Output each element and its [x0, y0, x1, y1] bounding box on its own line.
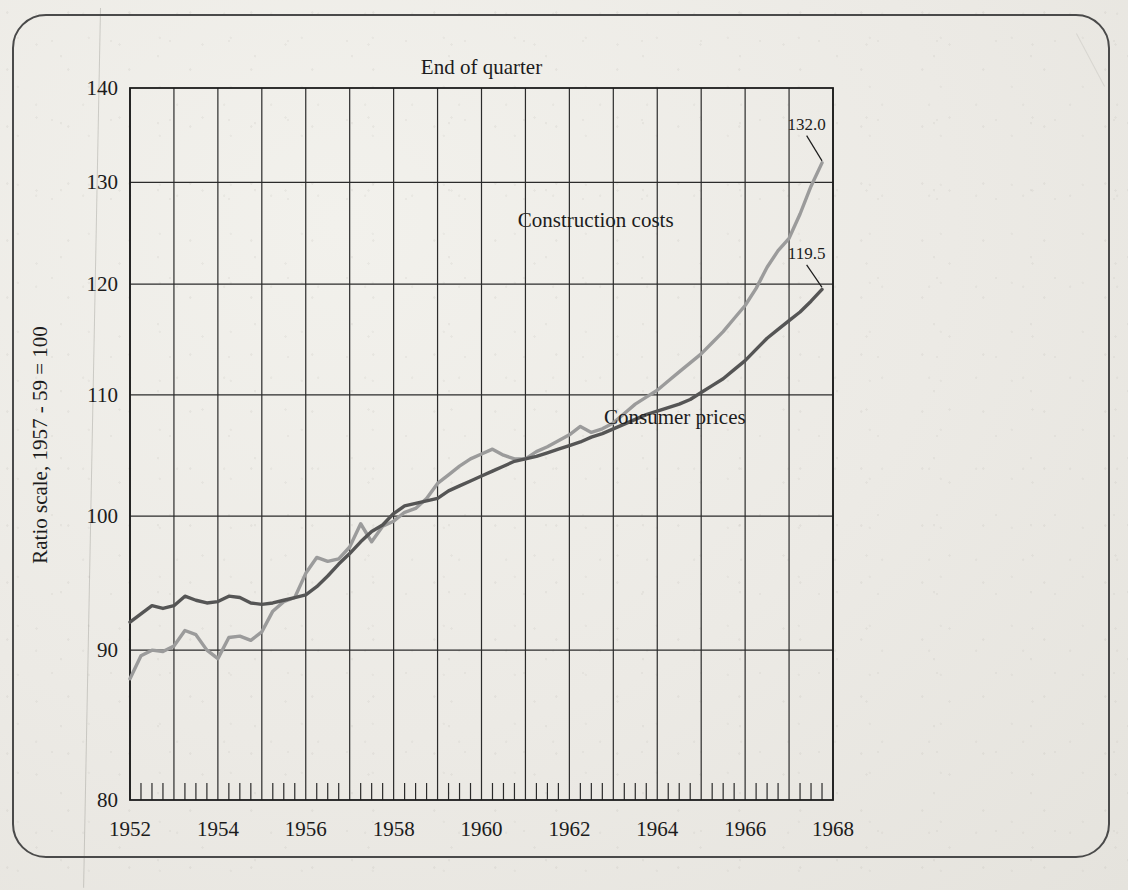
y-axis-title: Ratio scale, 1957 - 59 = 100: [28, 326, 52, 564]
series-label-construction-costs: Construction costs: [518, 208, 674, 232]
y-tick-label: 100: [87, 504, 119, 528]
x-tick-label: 1966: [724, 817, 766, 841]
x-tick-label: 1954: [197, 817, 240, 841]
y-tick-label: 130: [87, 170, 119, 194]
x-tick-label: 1952: [109, 817, 151, 841]
series-label-consumer-prices: Consumer prices: [604, 405, 746, 429]
page-background: 8090100110120130140 19521954195619581960…: [0, 0, 1128, 890]
plot-title: End of quarter: [421, 55, 542, 79]
x-tick-label: 1960: [461, 817, 503, 841]
x-tick-label: 1962: [548, 817, 590, 841]
x-tick-label: 1964: [636, 817, 679, 841]
y-axis-tick-labels: 8090100110120130140: [87, 76, 119, 812]
y-tick-label: 140: [87, 76, 119, 100]
x-tick-label: 1968: [812, 817, 854, 841]
y-tick-label: 110: [87, 383, 118, 407]
x-axis-tick-labels: 195219541956195819601962196419661968: [109, 817, 854, 841]
y-tick-label: 80: [97, 788, 118, 812]
x-tick-label: 1956: [285, 817, 327, 841]
chart-figure: 8090100110120130140 19521954195619581960…: [0, 0, 1128, 890]
end-value-label-construction-costs: 132.0: [788, 115, 826, 134]
vertical-gridlines: [130, 88, 833, 800]
y-tick-label: 90: [97, 638, 118, 662]
end-value-leader-lines: [807, 136, 822, 288]
y-tick-label: 120: [87, 272, 119, 296]
end-value-label-consumer-prices: 119.5: [788, 244, 826, 263]
x-tick-label: 1958: [373, 817, 415, 841]
